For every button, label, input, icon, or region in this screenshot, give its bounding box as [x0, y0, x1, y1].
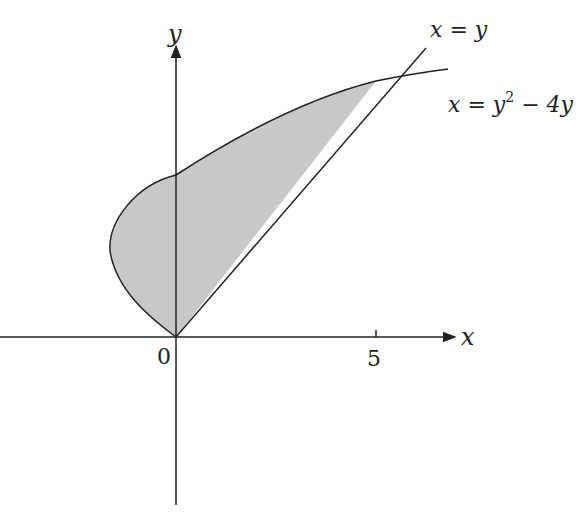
origin-label: 0 [157, 344, 171, 369]
shaded-region [110, 81, 376, 337]
x-tick-label-5: 5 [367, 346, 381, 371]
parabola-label: x = y2 − 4y [448, 89, 574, 117]
y-axis-label: y [167, 20, 182, 48]
x-axis-label: x [461, 323, 475, 351]
graph-canvas: y x 0 5 x = y x = y2 − 4y [0, 0, 586, 516]
line-label: x = y [430, 17, 488, 42]
